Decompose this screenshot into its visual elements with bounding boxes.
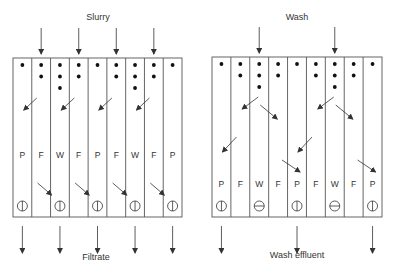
- port-dot-icon: [96, 63, 100, 67]
- plate-label-F: F: [351, 179, 356, 189]
- port-dot-icon: [295, 62, 299, 66]
- port-dot-icon: [114, 63, 118, 67]
- plate-label-F: F: [39, 150, 44, 160]
- plate-label-W: W: [331, 179, 339, 189]
- plate-label-P: P: [170, 150, 176, 160]
- plate-label-P: P: [219, 179, 225, 189]
- port-dot-icon: [371, 62, 375, 66]
- port-dot-icon: [257, 74, 261, 78]
- plate-label-F: F: [76, 150, 81, 160]
- port-dot-icon: [257, 62, 261, 66]
- port-dot-icon: [238, 74, 242, 78]
- port-dot-icon: [314, 62, 318, 66]
- port-dot-icon: [257, 85, 261, 89]
- port-dot-icon: [39, 75, 43, 79]
- plate-label-W: W: [56, 150, 64, 160]
- flow-arrow-icon: [113, 183, 127, 195]
- port-dot-icon: [133, 63, 137, 67]
- flow-arrow-icon: [358, 160, 376, 172]
- plate-label-W: W: [255, 179, 263, 189]
- plate-label-P: P: [20, 150, 26, 160]
- plate-label-P: P: [370, 179, 376, 189]
- port-dot-icon: [133, 86, 137, 90]
- port-dot-icon: [77, 75, 81, 79]
- port-dot-icon: [58, 63, 62, 67]
- washing-panel: PFWFPFWFP: [212, 27, 382, 253]
- port-dot-icon: [276, 62, 280, 66]
- port-dot-icon: [152, 63, 156, 67]
- press-frame: [212, 57, 382, 217]
- slurry-filtration-panel: PFWFPFWFP: [13, 28, 182, 253]
- plate-label-F: F: [313, 179, 318, 189]
- plate-label-W: W: [131, 150, 139, 160]
- plate-label-P: P: [95, 150, 101, 160]
- port-dot-icon: [152, 75, 156, 79]
- port-dot-icon: [333, 74, 337, 78]
- port-dot-icon: [58, 75, 62, 79]
- flow-arrow-icon: [298, 137, 312, 152]
- port-dot-icon: [276, 74, 280, 78]
- wash-label: Wash: [286, 12, 309, 22]
- port-dot-icon: [333, 85, 337, 89]
- flow-arrow-icon: [222, 137, 236, 152]
- flow-arrow-icon: [99, 98, 112, 110]
- plate-label-F: F: [151, 150, 156, 160]
- flow-arrow-icon: [150, 183, 164, 195]
- flow-arrow-icon: [61, 98, 74, 110]
- flow-arrow-icon: [136, 98, 149, 110]
- port-dot-icon: [333, 62, 337, 66]
- port-dot-icon: [352, 74, 356, 78]
- slurry-label: Slurry: [86, 12, 110, 22]
- port-dot-icon: [58, 86, 62, 90]
- port-dot-icon: [39, 63, 43, 67]
- plate-label-F: F: [276, 179, 281, 189]
- port-dot-icon: [133, 75, 137, 79]
- filtrate-label: Filtrate: [82, 252, 110, 262]
- port-dot-icon: [77, 63, 81, 67]
- flow-arrow-icon: [38, 183, 52, 195]
- flow-arrow-icon: [24, 98, 37, 110]
- press-frame: [13, 58, 182, 217]
- port-dot-icon: [238, 62, 242, 66]
- port-dot-icon: [171, 63, 175, 67]
- port-dot-icon: [220, 62, 224, 66]
- plate-label-P: P: [294, 179, 300, 189]
- plate-label-F: F: [238, 179, 243, 189]
- plate-label-F: F: [114, 150, 119, 160]
- filter-press-diagram: Slurry Wash Filtrate Wash effluent PFWFP…: [0, 0, 394, 272]
- flow-arrow-icon: [282, 160, 300, 172]
- flow-arrow-icon: [75, 183, 89, 195]
- port-dot-icon: [20, 63, 24, 67]
- port-dot-icon: [314, 74, 318, 78]
- port-dot-icon: [114, 75, 118, 79]
- port-dot-icon: [352, 62, 356, 66]
